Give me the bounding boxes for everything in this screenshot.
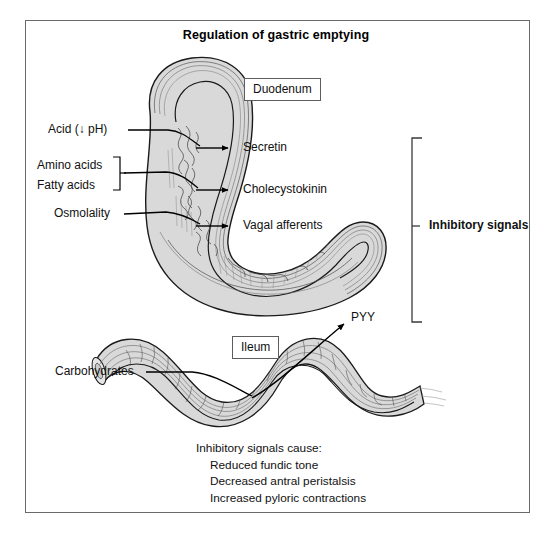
label-secretin: Secretin <box>243 141 287 154</box>
caption-inhibitory-effects: Inhibitory signals cause: Reduced fundic… <box>196 440 366 506</box>
label-acid: Acid (↓ pH) <box>48 123 107 136</box>
figure-root: Regulation of gastric emptying <box>0 0 552 544</box>
label-inhibitory-signals: Inhibitory signals <box>429 219 528 232</box>
label-fatty-acids: Fatty acids <box>37 179 95 192</box>
label-cholecystokinin: Cholecystokinin <box>243 183 327 196</box>
label-carbohydrates: Carbohydrates <box>55 365 134 378</box>
label-pyy: PYY <box>351 311 375 324</box>
caption-effect-0: Reduced fundic tone <box>196 457 366 474</box>
label-duodenum: Duodenum <box>244 78 321 101</box>
label-amino-acids: Amino acids <box>37 159 102 172</box>
label-ileum: Ileum <box>232 336 279 359</box>
label-vagal-afferents: Vagal afferents <box>243 219 323 232</box>
caption-effect-2: Increased pyloric contractions <box>196 490 366 507</box>
amino-fatty-bracket <box>113 157 126 190</box>
caption-effect-1: Decreased antral peristalsis <box>196 473 366 490</box>
label-osmolality: Osmolality <box>54 207 110 220</box>
caption-heading: Inhibitory signals cause: <box>196 440 366 457</box>
inhibitory-signals-bracket <box>412 138 422 322</box>
